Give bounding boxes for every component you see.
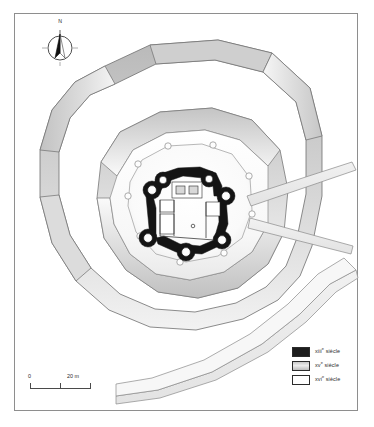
legend-item-13th-century: xiiie siècle <box>292 346 356 357</box>
site-plan-figure: N 0 20 m xiiie siècle xve siècle <box>0 0 374 427</box>
outer-wall-sw-face <box>40 195 91 281</box>
scale-bar-graphic <box>28 383 98 390</box>
outer-wall-n-face <box>150 40 272 72</box>
legend-swatch-16th-century <box>292 375 310 385</box>
legend: xiiie siècle xve siècle xvie siècle <box>292 346 356 385</box>
legend-label-15th-century: xve siècle <box>315 362 339 368</box>
legend-swatch-13th-century <box>292 347 310 357</box>
scale-bar: 0 20 m <box>28 373 98 390</box>
scale-tick-0 <box>30 383 31 389</box>
legend-century-13: xiii <box>315 348 322 354</box>
legend-period-13: siècle <box>324 348 340 354</box>
outer-wall-nw-face <box>40 66 115 152</box>
outer-wall-ne-face <box>263 53 322 140</box>
scale-tick-20 <box>90 383 91 389</box>
scale-tick-10 <box>60 383 61 389</box>
north-label: N <box>38 19 82 24</box>
legend-period-16: siècle <box>324 376 340 382</box>
legend-century-16: xvi <box>315 376 322 382</box>
legend-item-16th-century: xvie siècle <box>292 374 356 385</box>
legend-item-15th-century: xve siècle <box>292 360 356 371</box>
legend-label-13th-century: xiiie siècle <box>315 348 340 354</box>
scale-bar-labels: 0 20 m <box>28 373 98 382</box>
scale-min-label: 0 <box>28 373 31 379</box>
legend-period-15: siècle <box>323 362 339 368</box>
compass-rose: N <box>38 19 82 71</box>
legend-label-16th-century: xvie siècle <box>315 376 340 382</box>
scale-max-label: 20 m <box>67 373 79 379</box>
legend-swatch-15th-century <box>292 361 310 371</box>
